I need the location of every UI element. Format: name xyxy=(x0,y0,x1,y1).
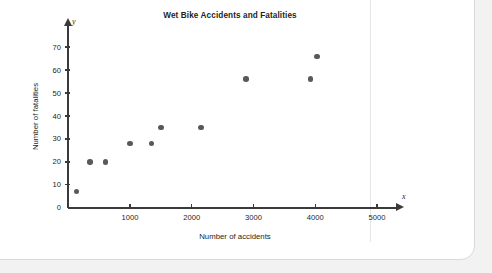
data-point xyxy=(314,54,319,59)
x-axis-tick xyxy=(253,204,254,209)
y-axis-tick xyxy=(65,184,70,185)
y-axis-tick xyxy=(65,69,70,70)
y-axis-tick-label: 30 xyxy=(39,134,61,143)
data-point xyxy=(103,159,108,164)
y-axis-tick xyxy=(65,138,70,139)
x-axis-tick xyxy=(315,204,316,209)
x-axis-tick-label: 4000 xyxy=(295,213,335,222)
y-axis-tick xyxy=(65,92,70,93)
data-point xyxy=(158,125,163,130)
data-point xyxy=(243,76,248,81)
y-axis-tick-label: 70 xyxy=(39,43,61,52)
scatter-chart-figure: Wet Bike Accidents and Fatalities x y 10… xyxy=(0,0,492,273)
data-point xyxy=(74,189,79,194)
data-point xyxy=(198,125,203,130)
y-axis-tick xyxy=(65,115,70,116)
y-axis-tick-label: 20 xyxy=(39,157,61,166)
data-point xyxy=(149,141,154,146)
x-axis-variable-label: x xyxy=(402,192,406,201)
x-axis-tick-label: 2000 xyxy=(172,213,212,222)
y-axis-arrowhead-icon xyxy=(64,18,72,26)
y-axis-tick xyxy=(65,161,70,162)
y-axis-title: Number of fatalities xyxy=(31,57,40,177)
y-axis-tick-label: 50 xyxy=(39,89,61,98)
x-axis-arrowhead-icon xyxy=(396,203,404,211)
y-axis-tick xyxy=(65,46,70,47)
x-axis-tick xyxy=(191,204,192,209)
y-axis-tick-label: 0 xyxy=(39,203,61,212)
y-axis-tick-label: 10 xyxy=(39,180,61,189)
x-axis-tick xyxy=(129,204,130,209)
x-axis-tick xyxy=(376,204,377,209)
y-axis-tick-label: 60 xyxy=(39,66,61,75)
x-axis-tick-label: 5000 xyxy=(357,213,397,222)
data-point xyxy=(127,141,132,146)
chart-title: Wet Bike Accidents and Fatalities xyxy=(100,11,360,20)
x-axis-line xyxy=(68,207,398,209)
data-point xyxy=(308,76,313,81)
y-axis-tick-label: 40 xyxy=(39,112,61,121)
x-axis-title: Number of accidents xyxy=(125,232,345,241)
y-axis-variable-label: y xyxy=(72,17,76,26)
data-point xyxy=(87,159,92,164)
x-axis-tick-label: 3000 xyxy=(233,213,273,222)
y-axis-line xyxy=(67,26,69,208)
x-axis-tick-label: 1000 xyxy=(110,213,150,222)
